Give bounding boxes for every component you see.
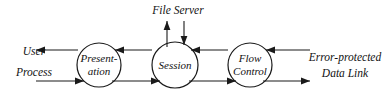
user-process-label-line1: User bbox=[23, 45, 46, 57]
flow-control-label-line2: Control bbox=[233, 65, 267, 77]
user-process-label-line2: Process bbox=[15, 66, 53, 78]
edge-fileserver-to-session bbox=[181, 21, 188, 45]
node-presentation[interactable]: Present- ation bbox=[77, 43, 121, 87]
edge-presentation-to-session bbox=[112, 78, 160, 85]
edge-session-to-flowcontrol bbox=[189, 78, 236, 85]
edge-flowcontrol-to-datalink bbox=[263, 78, 310, 85]
edge-datalink-to-flowcontrol bbox=[266, 47, 310, 54]
right-side-label: Error-protected Data Link bbox=[308, 51, 382, 79]
arrow-head-right bbox=[75, 78, 84, 85]
node-session[interactable]: Session bbox=[152, 42, 198, 88]
arrow-head-right bbox=[301, 78, 310, 85]
protocol-layer-diagram: Present- ation Session Flow Control User… bbox=[0, 0, 386, 99]
arrow-head-up bbox=[164, 21, 171, 30]
flow-control-label-line1: Flow bbox=[238, 52, 262, 64]
session-label-line1: Session bbox=[159, 59, 193, 71]
error-protected-data-link-label-line2: Data Link bbox=[321, 67, 369, 79]
diagram-canvas: Present- ation Session Flow Control User… bbox=[0, 0, 386, 99]
top-label: File Server bbox=[151, 4, 204, 16]
presentation-label-line1: Present- bbox=[80, 52, 118, 64]
error-protected-data-link-label-line1: Error-protected bbox=[308, 51, 382, 64]
presentation-label-line2: ation bbox=[88, 65, 111, 77]
edge-flowcontrol-to-session bbox=[191, 47, 228, 54]
edge-session-to-presentation bbox=[115, 47, 152, 54]
edge-user-to-presentation bbox=[36, 78, 84, 85]
node-flow-control[interactable]: Flow Control bbox=[228, 43, 272, 87]
file-server-label: File Server bbox=[151, 4, 204, 16]
